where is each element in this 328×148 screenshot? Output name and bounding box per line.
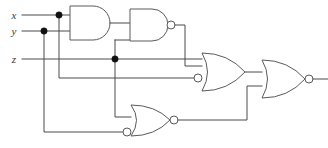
input-label-z: z <box>11 53 17 65</box>
input-label-y: y <box>11 25 17 37</box>
nand-output-bubble-icon <box>167 21 175 29</box>
wire-nand-output-to-or <box>175 25 202 66</box>
junction-dot-z <box>112 56 118 62</box>
output-nor-gate-body <box>262 60 305 98</box>
bottom-nor-inverted-input-bubble-icon <box>123 128 131 136</box>
junction-dot-x <box>56 12 62 18</box>
circuit-canvas: x y z <box>0 0 328 148</box>
wire-bottom-nor-output-to-final <box>178 86 262 120</box>
logic-circuit-diagram: x y z <box>0 0 328 148</box>
or-gate-inverted-input-bubble-icon <box>194 74 202 82</box>
wire-branch-z-to-nor <box>115 59 131 117</box>
output-nor-bubble-icon <box>305 75 313 83</box>
bottom-nor-gate-body <box>131 105 170 136</box>
and-gate-body <box>70 6 110 40</box>
junction-dot-y <box>41 28 47 34</box>
or-gate-body <box>202 53 245 91</box>
nand-gate-body <box>130 9 168 41</box>
bottom-nor-output-bubble-icon <box>170 116 178 124</box>
input-label-x: x <box>11 9 17 21</box>
